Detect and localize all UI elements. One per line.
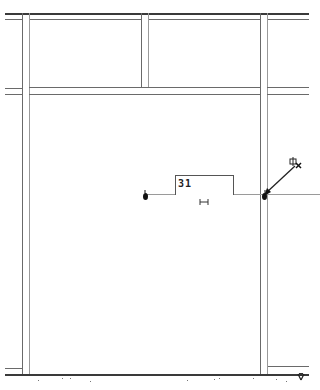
cad-cursor-icon <box>290 157 301 168</box>
speck <box>276 379 277 380</box>
speck <box>253 378 254 379</box>
speck <box>62 378 63 379</box>
speck <box>38 380 39 381</box>
speck <box>90 381 91 382</box>
speck <box>214 379 215 380</box>
dimension-span-icon <box>200 199 208 205</box>
leader-line <box>266 166 295 193</box>
speck <box>219 378 220 379</box>
origin-marker-icon <box>298 373 304 380</box>
speck <box>286 381 287 382</box>
speck <box>70 378 71 379</box>
speck <box>187 380 188 381</box>
drawing-overlay <box>0 0 320 390</box>
drawing-canvas[interactable]: 31 <box>0 0 320 390</box>
